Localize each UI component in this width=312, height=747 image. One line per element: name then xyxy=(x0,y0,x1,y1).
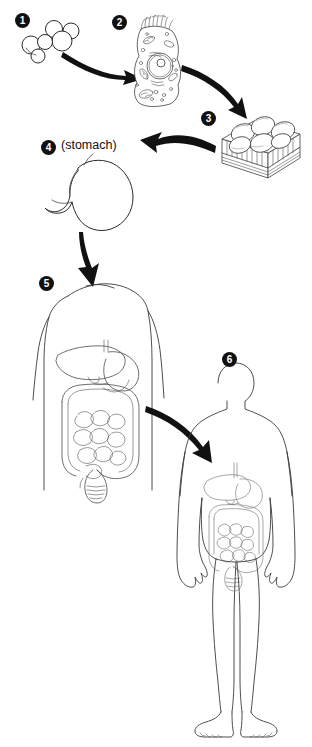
whole-body-icon xyxy=(177,363,295,737)
cell-icon xyxy=(135,15,181,107)
step-badge-4: 4 xyxy=(41,140,56,155)
step-badge-3: 3 xyxy=(201,111,216,126)
arrow-tissue-to-organ xyxy=(140,132,216,153)
stomach-caption: (stomach) xyxy=(61,138,117,152)
stomach-icon xyxy=(45,154,133,231)
diagram-canvas: .ln{fill:none;stroke:#2b2b2b;stroke-widt… xyxy=(0,0,312,747)
step-badge-1: 1 xyxy=(15,13,30,28)
torso-digestive-system-icon xyxy=(33,284,164,503)
diagram-artwork: .ln{fill:none;stroke:#2b2b2b;stroke-widt… xyxy=(0,0,312,747)
arrow-cell-to-tissue xyxy=(181,65,247,119)
arrow-molecule-to-cell xyxy=(61,52,143,85)
molecule-icon xyxy=(22,21,79,64)
step-badge-5: 5 xyxy=(39,276,54,291)
step-badge-6: 6 xyxy=(222,352,237,367)
step-badge-2: 2 xyxy=(112,15,127,30)
arrow-organ-to-organ-system xyxy=(78,232,99,287)
tissue-block-icon xyxy=(222,114,300,178)
arrow-organ-system-to-organism xyxy=(145,406,212,463)
